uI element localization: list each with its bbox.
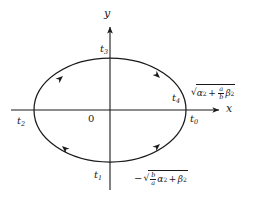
fraction-numerator-a: a (218, 86, 224, 93)
radicand-bottom: b a α2 + β2 (148, 170, 188, 187)
beta-exponent-top: 2 (231, 91, 235, 97)
direction-arrow-lower-right (152, 142, 161, 151)
point-label-t1: t1 (94, 170, 102, 180)
point-label-t2-sub: 2 (21, 120, 25, 128)
plus-operator-top: + (207, 89, 218, 98)
origin-label: 0 (88, 114, 94, 124)
point-label-t3-sub: 3 (104, 48, 108, 56)
fraction-a-over-b: a b (218, 86, 224, 101)
fraction-denominator-b: b (218, 93, 224, 101)
beta-exponent-bottom: 2 (183, 177, 187, 183)
direction-arrowheads (55, 71, 162, 153)
point-label-t2: t2 (17, 116, 25, 126)
plus-operator-bottom: + (167, 175, 178, 184)
y-axis-label: y (104, 8, 110, 19)
radical-sign-top-right: √ (191, 88, 197, 97)
point-label-t1-sub: 1 (98, 174, 102, 182)
point-label-t0-sub: 0 (194, 118, 198, 126)
fraction-denominator-a: a (150, 179, 156, 187)
fraction-b-over-a: b a (150, 172, 156, 187)
x-axis-label: x (226, 103, 232, 114)
point-label-t4: t4 (172, 93, 180, 103)
fraction-numerator-b: b (150, 172, 156, 179)
expression-top-right: √ α2 + a b β2 (191, 84, 235, 101)
point-label-t4-sub: 4 (176, 97, 180, 105)
expression-bottom: − √ b a α2 + β2 (134, 170, 188, 187)
minus-sign-bottom: − (134, 174, 143, 184)
point-label-t3: t3 (100, 44, 108, 54)
point-label-t0: t0 (190, 114, 198, 124)
radicand-top-right: α2 + a b β2 (196, 84, 236, 101)
radical-sign-bottom: √ (143, 174, 149, 183)
direction-arrow-upper-left (55, 74, 64, 83)
figure-canvas: x y 0 t0 t1 t2 t3 t4 √ α2 + a b β2 − √ (0, 0, 265, 205)
direction-arrow-upper-right (153, 71, 162, 80)
